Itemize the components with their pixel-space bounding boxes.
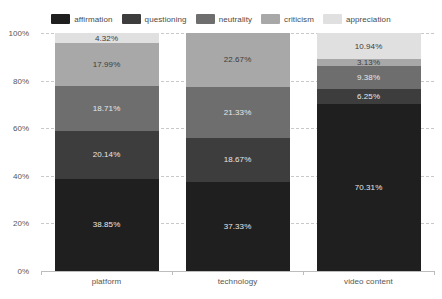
x-axis-line — [41, 271, 434, 272]
y-axis-tick-label: 60% — [0, 124, 29, 133]
x-axis-tick — [41, 271, 42, 275]
bar-segment-affirmation[interactable]: 70.31% — [317, 104, 421, 271]
y-axis-tick-label: 100% — [0, 29, 29, 38]
legend-item-label: questioning — [145, 15, 187, 24]
legend-item-label: neutrality — [219, 15, 252, 24]
chart-legend: affirmationquestioningneutralitycriticis… — [0, 10, 442, 28]
bar-segment-value-label: 17.99% — [93, 60, 121, 69]
bar-segment-value-label: 20.14% — [93, 150, 121, 159]
bar-segment-value-label: 21.33% — [224, 108, 252, 117]
bar-segment-questioning[interactable]: 6.25% — [317, 89, 421, 104]
bar-segment-value-label: 3.13% — [357, 59, 380, 66]
legend-swatch-icon — [323, 14, 342, 24]
bar-segment-neutrality[interactable]: 21.33% — [186, 87, 290, 138]
bar-segment-value-label: 38.85% — [93, 220, 121, 229]
bar-segment-neutrality[interactable]: 9.38% — [317, 66, 421, 88]
bars-layer: 4.32%17.99%18.71%20.14%38.85%22.67%21.33… — [41, 33, 434, 271]
bar-segment-value-label: 70.31% — [355, 183, 383, 192]
bar-segment-appreciation[interactable]: 10.94% — [317, 33, 421, 59]
y-axis-tick-label: 40% — [0, 172, 29, 181]
legend-item-questioning[interactable]: questioning — [122, 14, 187, 24]
legend-item-affirmation[interactable]: affirmation — [51, 14, 112, 24]
x-axis-tick — [303, 271, 304, 275]
plot-area: 0%20%40%60%80%100% 4.32%17.99%18.71%20.1… — [41, 33, 434, 271]
legend-item-label: affirmation — [74, 15, 112, 24]
y-axis-tick-label: 80% — [0, 77, 29, 86]
bar-segment-value-label: 18.67% — [224, 155, 252, 164]
legend-swatch-icon — [122, 14, 141, 24]
bar-segment-value-label: 37.33% — [224, 222, 252, 231]
legend-item-criticism[interactable]: criticism — [261, 14, 314, 24]
bar-segment-appreciation[interactable]: 4.32% — [55, 33, 159, 43]
bar-segment-neutrality[interactable]: 18.71% — [55, 86, 159, 131]
legend-item-appreciation[interactable]: appreciation — [323, 14, 391, 24]
stacked-bar-chart: affirmationquestioningneutralitycriticis… — [0, 0, 442, 299]
bar-segment-value-label: 4.32% — [95, 34, 118, 43]
legend-swatch-icon — [261, 14, 280, 24]
bar-segment-affirmation[interactable]: 37.33% — [186, 182, 290, 271]
legend-swatch-icon — [51, 14, 70, 24]
bar-group-technology: 22.67%21.33%18.67%37.33% — [172, 33, 303, 271]
bar-segment-value-label: 22.67% — [224, 55, 252, 64]
bar-stack: 4.32%17.99%18.71%20.14%38.85% — [55, 33, 159, 271]
bar-group-platform: 4.32%17.99%18.71%20.14%38.85% — [41, 33, 172, 271]
bar-segment-questioning[interactable]: 18.67% — [186, 138, 290, 182]
legend-item-label: criticism — [284, 15, 314, 24]
bar-group-video-content: 10.94%3.13%9.38%6.25%70.31% — [303, 33, 434, 271]
x-axis-tick — [172, 271, 173, 275]
bar-segment-questioning[interactable]: 20.14% — [55, 131, 159, 179]
bar-stack: 10.94%3.13%9.38%6.25%70.31% — [317, 33, 421, 271]
legend-swatch-icon — [196, 14, 215, 24]
legend-item-neutrality[interactable]: neutrality — [196, 14, 252, 24]
x-axis-labels: platformtechnologyvideo content — [41, 277, 434, 286]
legend-item-label: appreciation — [346, 15, 391, 24]
bar-segment-value-label: 6.25% — [357, 92, 380, 101]
bar-segment-affirmation[interactable]: 38.85% — [55, 179, 159, 271]
x-axis-tick — [434, 271, 435, 275]
bar-segment-criticism[interactable]: 22.67% — [186, 33, 290, 87]
y-axis-tick-label: 20% — [0, 219, 29, 228]
y-axis-tick-label: 0% — [0, 267, 29, 276]
bar-segment-criticism[interactable]: 17.99% — [55, 43, 159, 86]
bar-segment-value-label: 10.94% — [355, 42, 383, 51]
bar-segment-value-label: 9.38% — [357, 73, 380, 82]
bar-segment-value-label: 18.71% — [93, 104, 121, 113]
x-axis-category-label: platform — [41, 277, 172, 286]
x-axis-category-label: video content — [303, 277, 434, 286]
bar-segment-criticism[interactable]: 3.13% — [317, 59, 421, 66]
bar-stack: 22.67%21.33%18.67%37.33% — [186, 33, 290, 271]
x-axis-category-label: technology — [172, 277, 303, 286]
